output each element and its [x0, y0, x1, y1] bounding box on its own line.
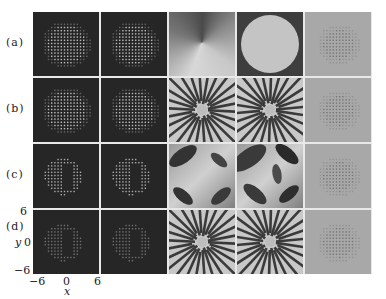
row-label-d: (d) — [6, 220, 25, 233]
panel-b-4 — [237, 78, 303, 142]
x-axis-label: x — [64, 285, 70, 298]
panel-a-1 — [33, 12, 99, 76]
panel-b-1 — [33, 78, 99, 142]
panel-c-3 — [169, 144, 235, 208]
panel-c-5 — [305, 144, 371, 208]
panel-a-2 — [101, 12, 167, 76]
row-label-a: (a) — [6, 36, 24, 49]
panel-c-4 — [237, 144, 303, 208]
panel-c-1 — [33, 144, 99, 208]
panel-b-3 — [169, 78, 235, 142]
panel-a-5 — [305, 12, 371, 76]
panel-a-3 — [169, 12, 235, 76]
figure: (a) (b) (c) (d) 6 y 0 −6 −6 0 6 x — [0, 0, 386, 299]
panel-grid — [33, 12, 372, 274]
y-tick-bottom: −6 — [14, 264, 30, 277]
panel-a-4 — [237, 12, 303, 76]
row-label-b: (b) — [6, 102, 25, 115]
panel-d-3 — [169, 210, 235, 274]
panel-b-5 — [305, 78, 371, 142]
y-tick-top: 6 — [20, 205, 27, 218]
panel-d-4 — [237, 210, 303, 274]
panel-d-5 — [305, 210, 371, 274]
x-tick-left: −6 — [29, 275, 45, 288]
panel-d-2 — [101, 210, 167, 274]
y-tick-mid: 0 — [24, 236, 31, 249]
row-label-c: (c) — [6, 168, 24, 181]
x-tick-right: 6 — [94, 275, 101, 288]
panel-c-2 — [101, 144, 167, 208]
y-axis-label: y — [15, 236, 21, 249]
panel-d-1 — [33, 210, 99, 274]
panel-b-2 — [101, 78, 167, 142]
